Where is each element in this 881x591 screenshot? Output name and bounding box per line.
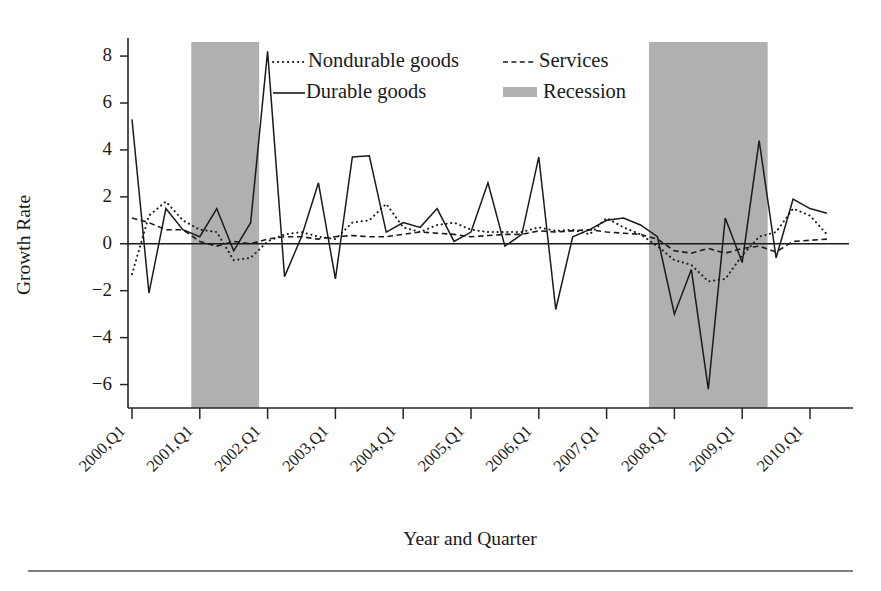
legend-item-recession: Recession: [503, 80, 626, 102]
x-axis-tick-labels: 2000,Q12001,Q12002,Q12003,Q12004,Q12005,…: [75, 421, 807, 475]
recession-band-2: [649, 42, 768, 408]
y-axis-title: Growth Rate: [13, 195, 34, 295]
x-tick-label-2007-Q1: 2007,Q1: [549, 421, 603, 475]
legend-item-services: Services: [503, 49, 608, 71]
x-tick-label-2002-Q1: 2002,Q1: [210, 421, 264, 475]
legend-item-nondurable-goods: Nondurable goods: [273, 49, 459, 72]
x-tick-label-2009-Q1: 2009,Q1: [685, 421, 739, 475]
y-axis-ticks: [120, 56, 128, 384]
chart-legend: Nondurable goods Services Durable goods …: [273, 49, 626, 103]
x-tick-label-2010-Q1: 2010,Q1: [753, 421, 807, 475]
legend-label-services: Services: [539, 49, 608, 71]
y-tick-label-4: 4: [103, 138, 113, 159]
legend-label-recession: Recession: [543, 80, 626, 102]
y-tick-label-0: 0: [103, 232, 113, 253]
y-tick-label--2: −2: [92, 279, 112, 300]
y-tick-label--4: −4: [92, 326, 113, 347]
x-axis-title: Year and Quarter: [403, 528, 537, 549]
x-tick-label-2001-Q1: 2001,Q1: [143, 421, 197, 475]
legend-label-nondurable-goods: Nondurable goods: [308, 49, 459, 72]
legend-item-durable-goods: Durable goods: [273, 80, 426, 103]
y-tick-label-6: 6: [103, 91, 113, 112]
x-tick-label-2006-Q1: 2006,Q1: [482, 421, 536, 475]
figure-container: 86420−2−4−6 2000,Q12001,Q12002,Q12003,Q1…: [0, 0, 881, 591]
x-tick-label-2003-Q1: 2003,Q1: [278, 421, 332, 475]
gray-band-swatch-icon: [503, 87, 537, 97]
x-tick-label-2004-Q1: 2004,Q1: [346, 421, 400, 475]
recession-bands-group: [191, 42, 767, 408]
x-tick-label-2005-Q1: 2005,Q1: [414, 421, 468, 475]
x-axis-ticks: [132, 408, 810, 419]
x-tick-label-2008-Q1: 2008,Q1: [617, 421, 671, 475]
y-axis-tick-labels: 86420−2−4−6: [92, 44, 113, 393]
y-tick-label--6: −6: [92, 373, 112, 394]
growth-rate-line-chart: 86420−2−4−6 2000,Q12001,Q12002,Q12003,Q1…: [0, 0, 881, 591]
y-tick-label-8: 8: [103, 44, 113, 65]
legend-label-durable-goods: Durable goods: [306, 80, 426, 103]
y-tick-label-2: 2: [103, 185, 113, 206]
x-tick-label-2000-Q1: 2000,Q1: [75, 421, 129, 475]
